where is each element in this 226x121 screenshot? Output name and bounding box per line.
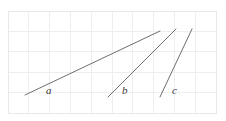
line-label-a: a [46, 84, 52, 96]
line-label-c: c [172, 84, 177, 96]
figure-canvas: abc [0, 0, 226, 121]
line-slope-figure: abc [0, 0, 226, 121]
line-label-b: b [122, 84, 128, 96]
grid [8, 11, 216, 113]
